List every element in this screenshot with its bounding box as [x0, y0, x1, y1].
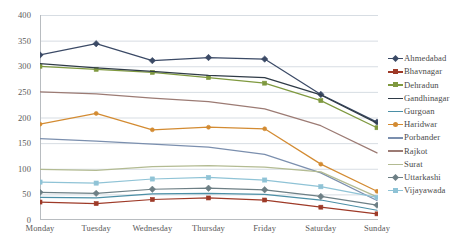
- data-point: [40, 122, 42, 126]
- legend-swatch-icon: [388, 185, 403, 196]
- data-point: [207, 196, 211, 200]
- data-point: [207, 125, 211, 129]
- data-point: [94, 181, 98, 185]
- legend-label: Rajkot: [404, 147, 428, 156]
- data-point: [205, 54, 211, 60]
- data-point: [206, 175, 210, 179]
- x-tick-label: Monday: [26, 224, 55, 233]
- legend-item-rajkot[interactable]: Rajkot: [388, 144, 476, 157]
- data-point: [150, 177, 154, 181]
- legend-item-porbander[interactable]: Porbander: [388, 131, 476, 144]
- legend-item-ahmedabad[interactable]: Ahmedabad: [388, 52, 476, 65]
- data-point: [375, 126, 378, 130]
- y-axis: 400350300250200150100500: [0, 15, 36, 220]
- data-point: [261, 187, 267, 193]
- legend-item-gurgoan[interactable]: Gurgoan: [388, 105, 476, 118]
- y-tick-label: 150: [18, 139, 31, 148]
- legend-label: Vijayawada: [404, 186, 446, 195]
- legend-label: Gandhinagar: [404, 94, 449, 103]
- y-tick-label: 250: [18, 88, 31, 97]
- data-point: [319, 185, 323, 189]
- data-point: [149, 186, 155, 192]
- data-point: [205, 185, 211, 191]
- legend-item-haridwar[interactable]: Haridwar: [388, 118, 476, 131]
- y-tick-label: 100: [18, 165, 31, 174]
- legend: AhmedabadBhavnagarDehradunGandhinagarGur…: [388, 52, 476, 197]
- legend-label: Gurgoan: [404, 107, 435, 116]
- legend-swatch-icon: [388, 132, 403, 143]
- data-point: [319, 205, 323, 209]
- x-tick-label: Wednesday: [132, 224, 172, 233]
- legend-swatch-icon: [388, 53, 403, 64]
- x-tick-label: Friday: [253, 224, 276, 233]
- data-point: [40, 64, 42, 68]
- data-point: [40, 200, 42, 204]
- y-tick-label: 400: [18, 11, 31, 20]
- data-point: [375, 195, 378, 199]
- legend-item-uttarkashi[interactable]: Uttarkashi: [388, 171, 476, 184]
- legend-item-bhavnagar[interactable]: Bhavnagar: [388, 65, 476, 78]
- legend-swatch-icon: [388, 66, 403, 77]
- data-point: [318, 193, 324, 199]
- data-point: [374, 202, 378, 208]
- legend-label: Surat: [404, 160, 423, 169]
- series-line: [40, 166, 377, 197]
- y-tick-label: 300: [18, 62, 31, 71]
- data-point: [319, 99, 323, 103]
- y-tick-label: 50: [22, 190, 31, 199]
- x-tick-label: Sunday: [364, 224, 390, 233]
- data-point: [40, 52, 43, 58]
- plot-svg: [40, 15, 378, 220]
- legend-swatch-icon: [388, 145, 403, 156]
- legend-label: Uttarkashi: [404, 173, 441, 182]
- data-point: [94, 111, 98, 115]
- line-chart: 400350300250200150100500 MondayTuesdayWe…: [0, 0, 476, 250]
- legend-item-vijayawada[interactable]: Vijayawada: [388, 184, 476, 197]
- series-line: [40, 198, 377, 214]
- data-point: [149, 57, 155, 63]
- data-point: [40, 180, 42, 184]
- data-point: [263, 127, 267, 131]
- data-point: [94, 202, 98, 206]
- x-axis: MondayTuesdayWednesdayThursdayFridaySatu…: [40, 224, 378, 244]
- legend-swatch-icon: [388, 159, 403, 170]
- x-tick-label: Thursday: [192, 224, 225, 233]
- x-tick-label: Saturday: [305, 224, 336, 233]
- legend-item-gandhinagar[interactable]: Gandhinagar: [388, 92, 476, 105]
- y-tick-label: 350: [18, 36, 31, 45]
- legend-label: Ahmedabad: [404, 54, 446, 63]
- series-bhavnagar: [40, 196, 378, 216]
- legend-label: Porbander: [404, 133, 440, 142]
- plot-area: [40, 15, 378, 220]
- data-point: [261, 56, 267, 62]
- data-point: [263, 81, 267, 85]
- series-ahmedabad: [40, 41, 378, 126]
- x-tick-label: Tuesday: [82, 224, 111, 233]
- data-point: [375, 189, 378, 193]
- series-haridwar: [40, 111, 378, 193]
- data-point: [263, 198, 267, 202]
- legend-swatch-icon: [388, 172, 403, 183]
- legend-swatch-icon: [388, 106, 403, 117]
- data-point: [375, 212, 378, 216]
- data-point: [150, 198, 154, 202]
- legend-label: Bhavnagar: [404, 67, 442, 76]
- data-point: [263, 178, 267, 182]
- series-surat: [40, 166, 377, 197]
- legend-label: Dehradun: [404, 81, 439, 90]
- data-point: [93, 190, 99, 196]
- legend-label: Haridwar: [404, 120, 437, 129]
- legend-item-surat[interactable]: Surat: [388, 158, 476, 171]
- legend-item-dehradun[interactable]: Dehradun: [388, 78, 476, 91]
- legend-swatch-icon: [388, 79, 403, 90]
- data-point: [319, 162, 323, 166]
- legend-swatch-icon: [388, 119, 403, 130]
- legend-swatch-icon: [388, 93, 403, 104]
- data-point: [150, 128, 154, 132]
- y-tick-label: 200: [18, 113, 31, 122]
